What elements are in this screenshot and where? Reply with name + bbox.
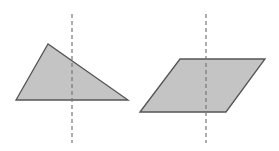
parallelogram-shape: [140, 59, 265, 112]
figure-parallelogram: [140, 14, 265, 143]
figure-triangle: [16, 14, 128, 143]
diagram-canvas: [0, 0, 279, 151]
